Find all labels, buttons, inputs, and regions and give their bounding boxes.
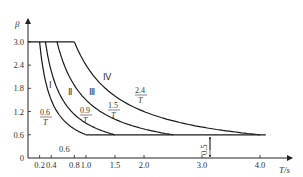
y-axis-label: β — [14, 19, 20, 29]
x-tick-label: 1.0 — [81, 160, 92, 170]
x-tick-label: 3.0 — [197, 160, 208, 170]
y-tick-label: 0 — [20, 153, 24, 163]
svg-text:2.4: 2.4 — [135, 86, 145, 95]
y-tick-label: 0.6 — [13, 130, 24, 140]
x-ticks: 0.20.40.81.01.52.03.04.0 — [34, 155, 265, 170]
curve-label-3: Ⅲ — [89, 87, 95, 97]
svg-text:T: T — [138, 96, 143, 105]
formula-label-4: 2.4 T — [135, 86, 147, 105]
x-tick-label: 4.0 — [255, 160, 266, 170]
x-tick-label: 0.2 — [34, 160, 45, 170]
svg-text:T: T — [43, 118, 48, 127]
svg-text:T: T — [83, 116, 88, 125]
svg-text:0.5: 0.5 — [199, 144, 209, 155]
curve-4 — [74, 42, 260, 135]
curve-3 — [57, 42, 173, 135]
y-tick-label: 3.0 — [13, 37, 24, 47]
note-0-6: 0.6 — [59, 144, 70, 154]
y-tick-label: 1.8 — [13, 83, 24, 93]
formula-label-1: 0.6 T — [40, 108, 52, 127]
svg-text:T: T — [111, 111, 116, 120]
y-tick-label: 2.4 — [13, 60, 24, 70]
curve-label-1: Ⅰ — [49, 80, 52, 90]
x-tick-label: 2.0 — [139, 160, 150, 170]
x-tick-label: 0.4 — [46, 160, 57, 170]
svg-text:0.6: 0.6 — [40, 108, 50, 117]
formula-label-2: 0.9 T — [80, 106, 92, 125]
y-tick-label: 1.2 — [13, 107, 24, 117]
curves — [28, 42, 266, 135]
x-axis-label: T/s — [279, 165, 291, 175]
x-tick-label: 1.5 — [110, 160, 121, 170]
svg-text:1.5: 1.5 — [108, 101, 118, 110]
curve-label-4: Ⅳ — [103, 72, 112, 82]
svg-text:0.9: 0.9 — [80, 106, 90, 115]
x-tick-label: 0.8 — [69, 160, 80, 170]
curve-label-2: Ⅱ — [68, 87, 72, 97]
dimension-0-5: 0.5 — [199, 137, 210, 157]
response-spectrum-chart: β T/s 00.61.21.82.43.0 0.20.40.81.01.52.… — [0, 0, 303, 177]
